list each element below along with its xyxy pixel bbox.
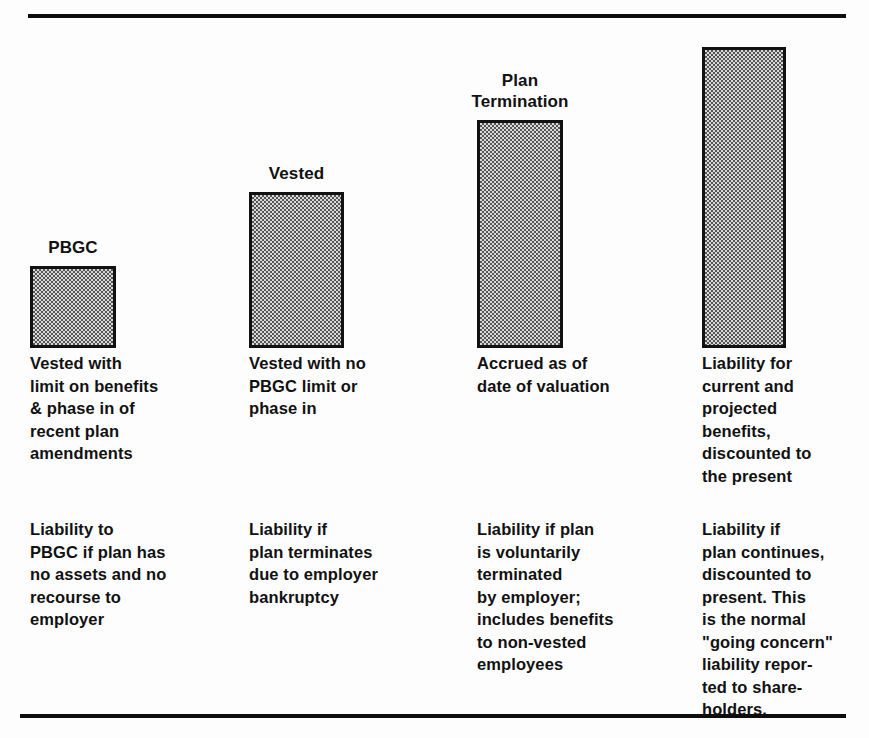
bar-group-projected-benefit — [702, 47, 786, 348]
primary-caption-projected-benefit: Liability for current and projected bene… — [702, 352, 862, 487]
secondary-caption-projected-benefit: Liability if plan continues, discounted … — [702, 518, 862, 721]
bottom-horizontal-rule — [20, 714, 846, 718]
secondary-caption-plan-termination: Liability if plan is voluntarily termina… — [477, 518, 677, 676]
secondary-caption-pbgc: Liability to PBGC if plan has no assets … — [30, 518, 230, 631]
bar-group-pbgc: PBGC — [30, 266, 116, 348]
secondary-caption-vested: Liability if plan terminates due to empl… — [249, 518, 449, 608]
bar-projected-benefit[interactable] — [702, 47, 786, 348]
bar-label-vested: Vested — [269, 163, 324, 184]
bar-label-plan-termination: Plan Termination — [471, 70, 568, 112]
bar-group-plan-termination: Plan Termination — [477, 120, 563, 348]
bar-plan-termination[interactable] — [477, 120, 563, 348]
primary-caption-pbgc: Vested with limit on benefits & phase in… — [30, 352, 230, 465]
figure-container: PBGC Vested Plan Termination Vested with… — [0, 0, 869, 738]
bar-vested[interactable] — [249, 192, 344, 348]
bar-chart-plot-area: PBGC Vested Plan Termination — [0, 0, 869, 348]
primary-caption-plan-termination: Accrued as of date of valuation — [477, 352, 677, 397]
bar-label-pbgc: PBGC — [48, 237, 98, 258]
primary-caption-vested: Vested with no PBGC limit or phase in — [249, 352, 449, 420]
bar-pbgc[interactable] — [30, 266, 116, 348]
bar-group-vested: Vested — [249, 192, 344, 348]
